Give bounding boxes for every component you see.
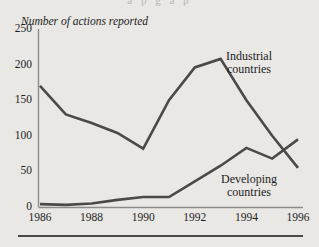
series-label-developing-line1: Developing <box>221 172 277 186</box>
x-tick-label: 1996 <box>278 212 318 224</box>
y-tick-label: 0 <box>2 201 32 213</box>
line-chart <box>0 0 319 247</box>
footer-rule <box>18 235 303 237</box>
series-label-industrial-line2: countries <box>226 63 272 76</box>
figure-panel: a p g a p Number of actions reported 050… <box>0 0 319 247</box>
series-label-developing-line2: countries <box>221 186 277 199</box>
series-label-industrial-countries: Industrial countries <box>226 50 272 75</box>
series-label-developing-countries: Developing countries <box>221 173 277 198</box>
x-tick-label: 1992 <box>175 212 215 224</box>
y-tick-label: 250 <box>2 23 32 35</box>
x-tick-label: 1986 <box>20 212 60 224</box>
x-tick-label: 1990 <box>123 212 163 224</box>
x-tick-label: 1994 <box>226 212 266 224</box>
y-tick-label: 150 <box>2 94 32 106</box>
y-tick-label: 100 <box>2 130 32 142</box>
series-label-industrial-line1: Industrial <box>226 49 272 63</box>
y-tick-label: 50 <box>2 165 32 177</box>
x-tick-label: 1988 <box>72 212 112 224</box>
y-tick-label: 200 <box>2 59 32 71</box>
